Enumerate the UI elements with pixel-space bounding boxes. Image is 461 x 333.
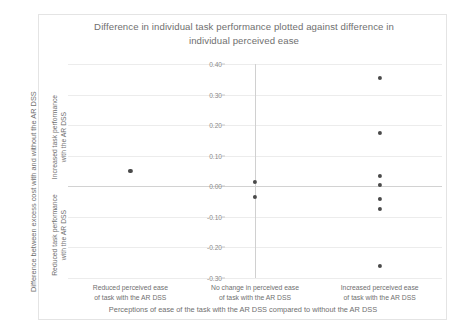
y-axis-tick-label: 0.20	[192, 122, 222, 129]
y-axis-tick-label: -0.30	[192, 275, 222, 282]
data-point[interactable]	[378, 173, 382, 177]
x-axis-category-label-line: Increased perceived ease	[341, 283, 419, 293]
x-axis-category-label-line: of task with the AR DSS	[93, 293, 168, 303]
y-axis-tick-label: 0.00	[192, 183, 222, 190]
y-axis-title: Difference between excess cost with and …	[29, 91, 38, 292]
x-axis-category-label-line: of task with the AR DSS	[211, 293, 299, 303]
data-point[interactable]	[128, 169, 132, 173]
y-axis-tick-label: 0.30	[192, 91, 222, 98]
y-axis-tick-mark	[222, 186, 225, 187]
data-point[interactable]	[378, 76, 382, 80]
data-point[interactable]	[253, 180, 257, 184]
data-point[interactable]	[378, 131, 382, 135]
x-axis-category-label-line: Reduced perceived ease	[93, 283, 168, 293]
plot-area	[68, 64, 442, 278]
y-axis-label-reduced: Reduced task performance with the AR DSS	[51, 189, 68, 281]
y-axis-tick-label: 0.40	[192, 61, 222, 68]
x-axis-category-label-line: of task with the AR DSS	[341, 293, 419, 303]
x-axis-category-label-line: No change in perceived ease	[211, 283, 299, 293]
y-axis-tick-mark	[222, 64, 225, 65]
x-axis-title: Perceptions of ease of the task with the…	[48, 305, 438, 314]
x-axis-category-label: Increased perceived easeof task with the…	[341, 283, 419, 302]
y-axis-tick-label: -0.10	[192, 213, 222, 220]
data-point[interactable]	[253, 195, 257, 199]
chart-title: Difference in individual task performanc…	[58, 20, 430, 48]
data-point[interactable]	[378, 264, 382, 268]
y-axis-label-reduced-line-2: with the AR DSS	[60, 189, 69, 281]
x-axis-category-label: No change in perceived easeof task with …	[211, 283, 299, 302]
y-axis-tick-mark	[222, 155, 225, 156]
y-axis-tick-mark	[222, 216, 225, 217]
y-axis-tick-mark	[222, 94, 225, 95]
y-axis-tick-labels: 0.400.300.200.100.00-0.10-0.20-0.30	[188, 64, 222, 278]
y-axis-label-increased-line-2: with the AR DSS	[60, 82, 69, 192]
y-axis-label-increased: Increased task performance with the AR D…	[51, 82, 68, 192]
x-axis-category-label: Reduced perceived easeof task with the A…	[93, 283, 168, 302]
data-point[interactable]	[378, 207, 382, 211]
chart-title-line-2: individual perceived ease	[58, 34, 430, 48]
y-axis-tick-label: 0.10	[192, 152, 222, 159]
y-axis-tick-mark	[222, 278, 225, 279]
gridline	[68, 278, 442, 279]
x-axis-category-labels: Reduced perceived easeof task with the A…	[68, 283, 442, 305]
category-axis-line	[255, 64, 256, 278]
y-axis-label-reduced-line-1: Reduced task performance	[51, 189, 60, 281]
data-point[interactable]	[378, 196, 382, 200]
chart-title-line-1: Difference in individual task performanc…	[58, 20, 430, 34]
y-axis-tick-mark	[222, 247, 225, 248]
y-axis-label-increased-line-1: Increased task performance	[51, 82, 60, 192]
y-axis-tick-label: -0.20	[192, 244, 222, 251]
y-axis-tick-mark	[222, 125, 225, 126]
